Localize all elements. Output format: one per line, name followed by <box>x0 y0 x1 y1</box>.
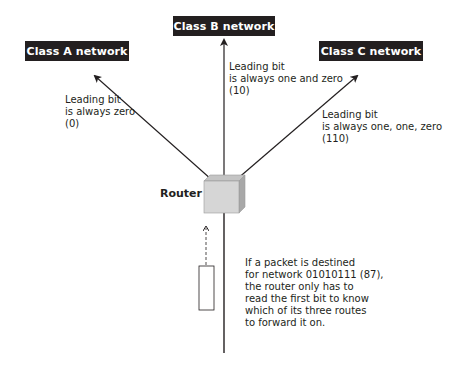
class-c-label: Class C network <box>321 45 422 58</box>
class-c-note: Leading bit is always one, one, zero (11… <box>322 109 442 145</box>
packet-explanation: If a packet is destined for network 0101… <box>245 257 384 329</box>
class-b-network-box: Class B network <box>173 16 275 36</box>
class-b-label: Class B network <box>174 20 275 33</box>
class-a-network-box: Class A network <box>25 41 129 61</box>
class-c-network-box: Class C network <box>319 41 423 61</box>
packet-icon <box>199 266 214 310</box>
class-a-label: Class A network <box>26 45 127 58</box>
class-a-note: Leading bit is always zero (0) <box>65 94 135 130</box>
router-label: Router <box>160 187 202 200</box>
class-b-note: Leading bit is always one and zero (10) <box>229 61 343 97</box>
router-cube-icon <box>204 175 245 213</box>
